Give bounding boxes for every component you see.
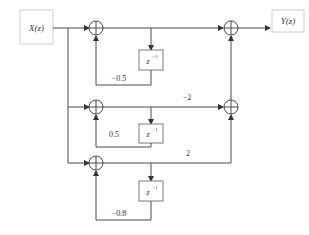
feedback-gain-label: −0.8 bbox=[112, 209, 127, 218]
adder-icon bbox=[89, 100, 103, 114]
branch-2: −2 z −1 0.5 bbox=[89, 93, 223, 147]
svg-text:−1: −1 bbox=[152, 127, 158, 132]
feedback-gain-label: 0.5 bbox=[109, 130, 119, 139]
svg-text:−1: −1 bbox=[152, 54, 158, 59]
adder-icon bbox=[224, 100, 238, 114]
input-block: X(z) bbox=[20, 10, 53, 44]
output-adder bbox=[224, 21, 270, 35]
middle-right-adder bbox=[224, 36, 238, 114]
output-label: Y(z) bbox=[281, 16, 296, 26]
forward-gain-label: −2 bbox=[183, 93, 192, 102]
delay-block: z −1 bbox=[139, 181, 163, 201]
adder-icon bbox=[89, 156, 103, 170]
delay-block: z −1 bbox=[139, 124, 163, 143]
svg-text:−1: −1 bbox=[152, 185, 158, 190]
input-label: X(z) bbox=[28, 23, 44, 33]
branch-1: z −1 −0.5 bbox=[89, 21, 223, 85]
adder-icon bbox=[224, 21, 238, 35]
forward-gain-label: 2 bbox=[186, 149, 190, 158]
block-diagram: X(z) Y(z) z −1 −0.5 −2 bbox=[0, 0, 309, 235]
feedback-gain-label: −0.5 bbox=[112, 74, 127, 83]
branch3-to-adder-wire bbox=[103, 115, 231, 163]
adder-icon bbox=[89, 21, 103, 35]
delay-block: z −1 bbox=[139, 50, 163, 70]
output-block: Y(z) bbox=[272, 10, 304, 32]
